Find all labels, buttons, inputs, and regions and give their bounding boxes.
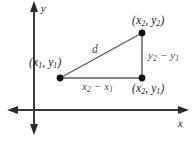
vertex-dot-x1-y1: [57, 75, 64, 82]
vertex-dot-x2-y1: [139, 75, 146, 82]
coordinate-plane-drawing: [0, 0, 196, 142]
y-axis: [30, 1, 38, 135]
distance-formula-figure: y x (x1, y1) (x2, y2) (x2, y1) d y2 − y1…: [0, 0, 196, 142]
vertex-dot-x2-y2: [139, 30, 146, 37]
hypotenuse-segment: [60, 33, 142, 78]
right-triangle: [60, 33, 142, 78]
